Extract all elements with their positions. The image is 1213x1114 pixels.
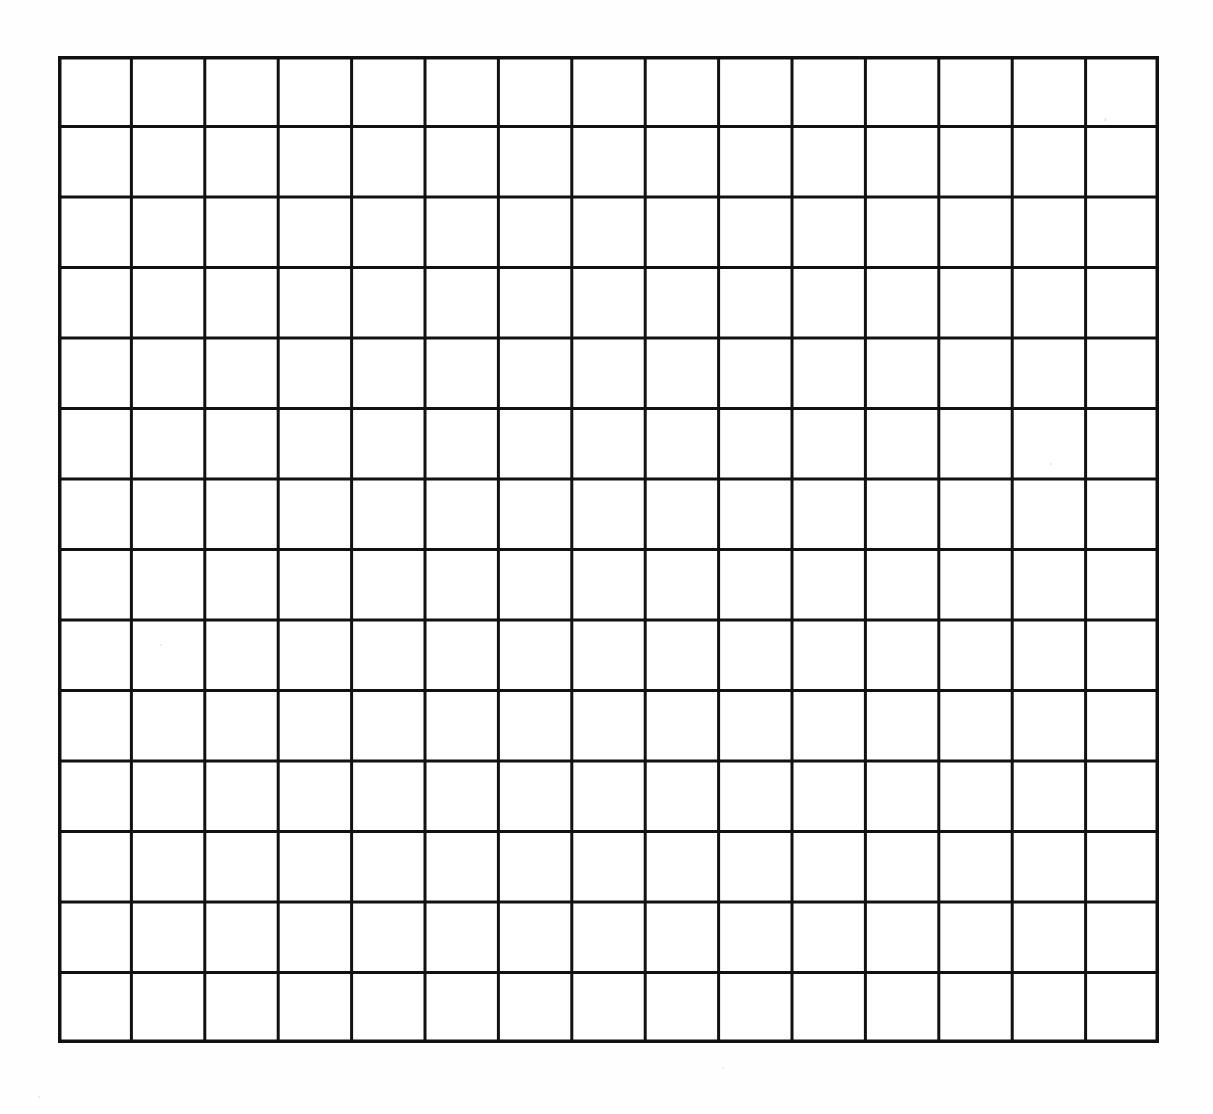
grid-cell[interactable] — [572, 973, 645, 1044]
grid-cell[interactable] — [58, 832, 131, 903]
grid-cell[interactable] — [1012, 902, 1085, 973]
grid-cell[interactable] — [572, 338, 645, 409]
grid-cell[interactable] — [498, 761, 571, 832]
grid-cell[interactable] — [425, 620, 498, 691]
grid-cell[interactable] — [939, 479, 1012, 550]
grid-cell[interactable] — [278, 620, 351, 691]
grid-cell[interactable] — [572, 268, 645, 339]
grid-cell[interactable] — [572, 832, 645, 903]
grid-cell[interactable] — [792, 479, 865, 550]
grid-cell[interactable] — [1086, 127, 1159, 198]
grid-cell[interactable] — [278, 197, 351, 268]
grid-cell[interactable] — [131, 691, 204, 762]
grid-cell[interactable] — [645, 56, 718, 127]
grid-cell[interactable] — [572, 620, 645, 691]
grid-cell[interactable] — [58, 127, 131, 198]
grid-cell[interactable] — [865, 902, 938, 973]
grid-cell[interactable] — [205, 620, 278, 691]
grid-cell[interactable] — [278, 550, 351, 621]
grid-cell[interactable] — [939, 550, 1012, 621]
grid-cell[interactable] — [352, 127, 425, 198]
grid-cell[interactable] — [1012, 832, 1085, 903]
grid-cell[interactable] — [939, 761, 1012, 832]
grid-cell[interactable] — [939, 902, 1012, 973]
grid-cell[interactable] — [131, 56, 204, 127]
grid-cell[interactable] — [719, 761, 792, 832]
grid-cell[interactable] — [205, 479, 278, 550]
grid-cell[interactable] — [278, 761, 351, 832]
grid-cell[interactable] — [58, 973, 131, 1044]
grid-cell[interactable] — [792, 691, 865, 762]
grid-cell[interactable] — [572, 409, 645, 480]
grid-cell[interactable] — [498, 56, 571, 127]
grid-cell[interactable] — [645, 902, 718, 973]
grid-cell[interactable] — [1012, 56, 1085, 127]
grid-cell[interactable] — [58, 620, 131, 691]
grid-cell[interactable] — [498, 479, 571, 550]
grid-cell[interactable] — [352, 338, 425, 409]
grid-cell[interactable] — [498, 409, 571, 480]
grid-cell[interactable] — [131, 409, 204, 480]
grid-cell[interactable] — [792, 973, 865, 1044]
grid-cell[interactable] — [1086, 620, 1159, 691]
grid-cell[interactable] — [131, 832, 204, 903]
grid-cell[interactable] — [719, 479, 792, 550]
grid-cell[interactable] — [792, 268, 865, 339]
grid-cell[interactable] — [131, 197, 204, 268]
grid-cell[interactable] — [865, 268, 938, 339]
grid-cell[interactable] — [58, 409, 131, 480]
grid-cell[interactable] — [58, 761, 131, 832]
grid-cell[interactable] — [205, 973, 278, 1044]
grid-cell[interactable] — [792, 902, 865, 973]
grid-cell[interactable] — [352, 691, 425, 762]
grid-cell[interactable] — [1012, 691, 1085, 762]
grid-cell[interactable] — [278, 409, 351, 480]
grid-cell[interactable] — [1086, 409, 1159, 480]
grid-cell[interactable] — [572, 902, 645, 973]
grid-cell[interactable] — [719, 832, 792, 903]
grid-cell[interactable] — [425, 479, 498, 550]
grid-cell[interactable] — [205, 56, 278, 127]
grid-cell[interactable] — [205, 691, 278, 762]
grid-cell[interactable] — [278, 127, 351, 198]
grid-cell[interactable] — [939, 338, 1012, 409]
grid-cell[interactable] — [719, 409, 792, 480]
grid-cell[interactable] — [1086, 479, 1159, 550]
grid-cell[interactable] — [425, 761, 498, 832]
grid-cell[interactable] — [792, 409, 865, 480]
grid-cell[interactable] — [865, 56, 938, 127]
grid-cell[interactable] — [352, 973, 425, 1044]
grid-cell[interactable] — [572, 197, 645, 268]
grid-cell[interactable] — [498, 620, 571, 691]
grid-cell[interactable] — [572, 479, 645, 550]
grid-cell[interactable] — [1086, 902, 1159, 973]
grid-cell[interactable] — [1012, 620, 1085, 691]
grid-cell[interactable] — [498, 338, 571, 409]
grid-cell[interactable] — [425, 338, 498, 409]
grid-cell[interactable] — [792, 127, 865, 198]
grid-cell[interactable] — [645, 761, 718, 832]
grid-cell[interactable] — [278, 338, 351, 409]
grid-cell[interactable] — [645, 127, 718, 198]
grid-cell[interactable] — [352, 902, 425, 973]
grid-cell[interactable] — [572, 127, 645, 198]
grid-cell[interactable] — [645, 409, 718, 480]
grid-cell[interactable] — [1086, 550, 1159, 621]
grid-cell[interactable] — [425, 197, 498, 268]
grid-cell[interactable] — [939, 56, 1012, 127]
grid-cell[interactable] — [719, 691, 792, 762]
grid-cell[interactable] — [205, 409, 278, 480]
grid-cell[interactable] — [645, 620, 718, 691]
grid-cell[interactable] — [352, 479, 425, 550]
grid-cell[interactable] — [352, 409, 425, 480]
grid-cell[interactable] — [58, 56, 131, 127]
grid-cell[interactable] — [131, 268, 204, 339]
grid-cell[interactable] — [1012, 268, 1085, 339]
grid-cell[interactable] — [572, 691, 645, 762]
grid-cell[interactable] — [1012, 479, 1085, 550]
grid-cell[interactable] — [1012, 409, 1085, 480]
grid-cell[interactable] — [939, 197, 1012, 268]
grid-cell[interactable] — [425, 902, 498, 973]
grid-cell[interactable] — [1086, 761, 1159, 832]
grid-cell[interactable] — [1086, 338, 1159, 409]
